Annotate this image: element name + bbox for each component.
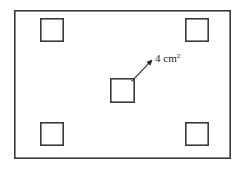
area-label-exponent: 2 xyxy=(177,52,181,60)
square-top-left xyxy=(41,19,63,41)
square-center xyxy=(111,79,134,102)
geometry-diagram: 4 cm2 xyxy=(0,0,245,172)
square-bottom-left xyxy=(41,123,63,145)
square-bottom-right xyxy=(186,123,208,145)
area-callout-arrow xyxy=(132,60,152,81)
outer-rectangle xyxy=(15,11,230,158)
square-top-right xyxy=(186,19,208,41)
area-label: 4 cm2 xyxy=(155,52,181,64)
diagram-canvas: 4 cm2 xyxy=(0,0,245,172)
area-label-value: 4 cm xyxy=(155,52,177,64)
